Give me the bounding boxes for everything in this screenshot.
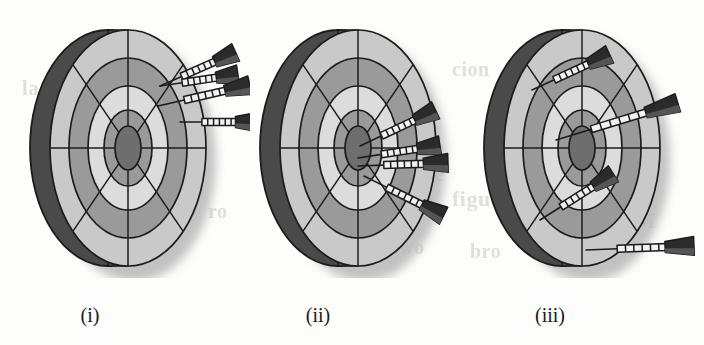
board-ring-bullseye [345, 126, 371, 170]
caption-board-i: (i) [30, 302, 150, 328]
board-ii-graphic [240, 18, 480, 278]
caption-board-ii: (ii) [258, 302, 378, 328]
board-i-graphic [10, 18, 250, 278]
caption-board-iii: (iii) [490, 302, 610, 328]
captions-container: (i)(ii)(iii) [0, 302, 704, 334]
board-i [10, 18, 250, 278]
board-ii [240, 18, 480, 278]
board-iii [464, 18, 704, 278]
dartboards-container [0, 0, 704, 345]
board-ring-bullseye [115, 126, 141, 170]
board-iii-graphic [464, 18, 704, 278]
figure-root: lacionviroloSefiguidwMtwobrolaro [Sectio… [0, 0, 704, 345]
